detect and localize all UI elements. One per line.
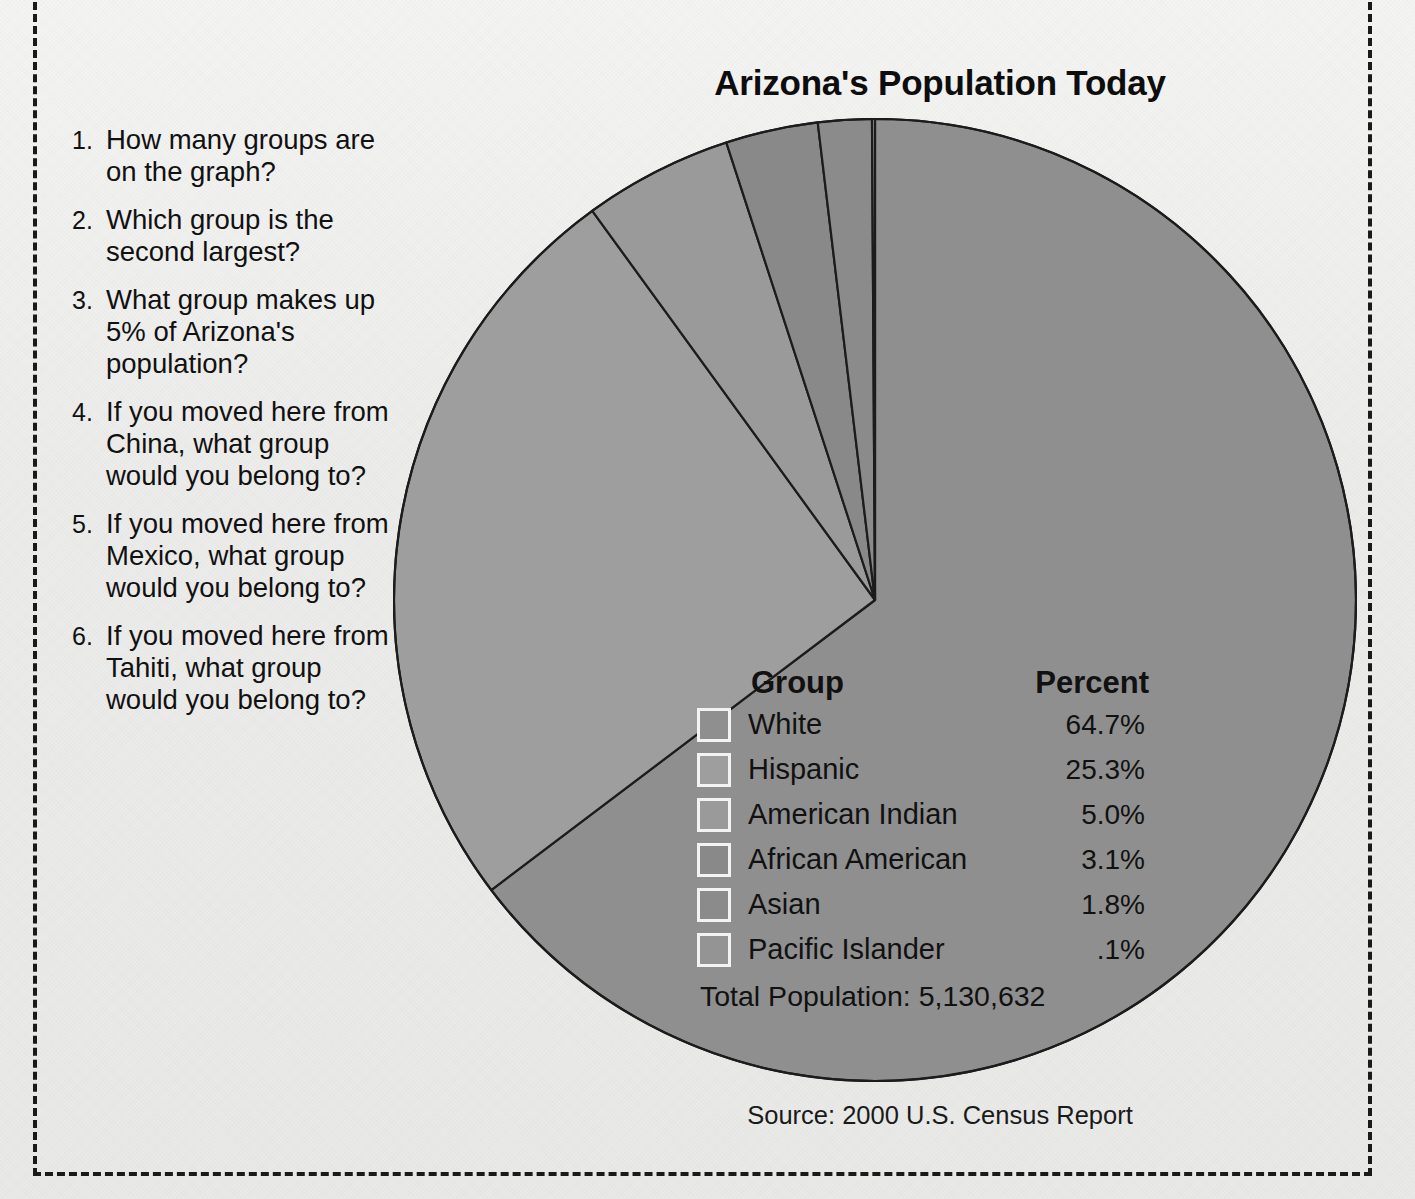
question-item: 4. If you moved here from China, what gr… — [72, 396, 394, 492]
legend-swatch-american-indian — [697, 798, 731, 832]
question-number: 2. — [72, 204, 106, 235]
question-number: 6. — [72, 620, 106, 651]
question-text: Which group is the second largest? — [106, 204, 394, 268]
question-text: What group makes up 5% of Arizona's popu… — [106, 284, 394, 380]
legend-swatch-pacific-islander — [697, 933, 731, 967]
question-number: 5. — [72, 508, 106, 539]
legend-header-row: Group Percent — [697, 665, 1149, 701]
question-text: How many groups are on the graph? — [106, 124, 394, 188]
legend-label: American Indian — [748, 800, 985, 829]
question-item: 1. How many groups are on the graph? — [72, 124, 394, 188]
chart-source: Source: 2000 U.S. Census Report — [560, 1101, 1320, 1130]
question-text: If you moved here from Tahiti, what grou… — [106, 620, 394, 716]
question-number: 3. — [72, 284, 106, 315]
question-text: If you moved here from China, what group… — [106, 396, 394, 492]
legend-swatch-white — [697, 708, 731, 742]
legend-row: White 64.7% — [697, 702, 1149, 747]
question-number: 4. — [72, 396, 106, 427]
question-text: If you moved here from Mexico, what grou… — [106, 508, 394, 604]
legend-row: American Indian 5.0% — [697, 792, 1149, 837]
chart-legend: Group Percent White 64.7% Hispanic 25.3%… — [697, 665, 1149, 1013]
legend-percent: 25.3% — [985, 756, 1149, 784]
question-number: 1. — [72, 124, 106, 155]
chart-title: Arizona's Population Today — [560, 63, 1320, 103]
question-item: 3. What group makes up 5% of Arizona's p… — [72, 284, 394, 380]
legend-row: Pacific Islander .1% — [697, 927, 1149, 972]
questions-list: 1. How many groups are on the graph? 2. … — [72, 124, 394, 733]
legend-label: White — [748, 710, 985, 739]
legend-label: African American — [748, 845, 985, 874]
legend-label: Pacific Islander — [748, 935, 985, 964]
legend-header-percent: Percent — [989, 665, 1149, 701]
legend-percent: .1% — [985, 936, 1149, 964]
legend-swatch-african-american — [697, 843, 731, 877]
legend-row: African American 3.1% — [697, 837, 1149, 882]
legend-swatch-hispanic — [697, 753, 731, 787]
legend-swatch-asian — [697, 888, 731, 922]
legend-percent: 64.7% — [985, 711, 1149, 739]
legend-percent: 1.8% — [985, 891, 1149, 919]
legend-row: Asian 1.8% — [697, 882, 1149, 927]
legend-label: Asian — [748, 890, 985, 919]
legend-percent: 5.0% — [985, 801, 1149, 829]
legend-percent: 3.1% — [985, 846, 1149, 874]
question-item: 5. If you moved here from Mexico, what g… — [72, 508, 394, 604]
question-item: 2. Which group is the second largest? — [72, 204, 394, 268]
legend-header-group: Group — [751, 665, 989, 701]
total-population-label: Total Population: 5,130,632 — [697, 972, 1149, 1013]
legend-row: Hispanic 25.3% — [697, 747, 1149, 792]
question-item: 6. If you moved here from Tahiti, what g… — [72, 620, 394, 716]
legend-label: Hispanic — [748, 755, 985, 784]
cropped-top-text — [240, 0, 1000, 2]
worksheet-page: 1. How many groups are on the graph? 2. … — [0, 0, 1415, 1199]
